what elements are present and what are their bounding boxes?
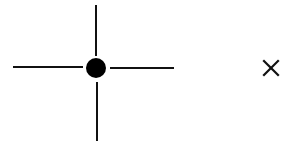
crosshair-diagram [0, 0, 288, 149]
close-icon [262, 59, 280, 77]
close-button[interactable] [258, 54, 284, 82]
crosshair-center-dot [86, 58, 106, 78]
